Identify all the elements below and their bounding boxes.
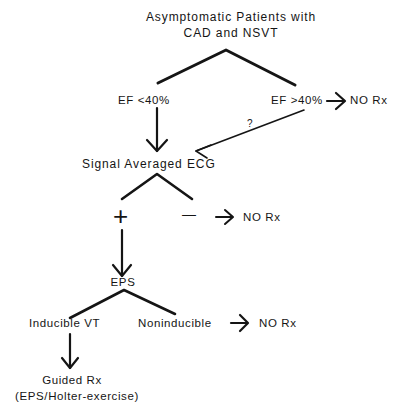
question-mark: ?: [247, 117, 253, 130]
eps-node: EPS: [111, 276, 136, 289]
connector-lines: [0, 0, 403, 406]
ef-less-40: EF <40%: [118, 94, 170, 107]
positive-result: +: [113, 203, 128, 229]
guided-rx: Guided Rx: [42, 374, 102, 387]
ef-greater-40: EF >40%: [271, 94, 323, 107]
saecg-negative-outcome: NO Rx: [243, 211, 281, 224]
noninducible-outcome: NO Rx: [259, 317, 297, 330]
guided-rx-detail: (EPS/Holter-exercise): [15, 390, 139, 403]
flowchart: Asymptomatic Patients with CAD and NSVT …: [0, 0, 403, 406]
negative-result: —: [182, 208, 196, 221]
split-top: [158, 50, 295, 85]
ef-greater-40-outcome: NO Rx: [350, 94, 388, 107]
signal-averaged-ecg: Signal Averaged ECG: [82, 158, 216, 171]
split-saecg: [122, 174, 192, 199]
inducible-vt: Inducible VT: [29, 317, 100, 330]
split-eps: [70, 290, 175, 318]
root-line2: CAD and NSVT: [184, 27, 279, 40]
root-line1: Asymptomatic Patients with: [146, 11, 316, 24]
noninducible: Noninducible: [138, 317, 212, 330]
